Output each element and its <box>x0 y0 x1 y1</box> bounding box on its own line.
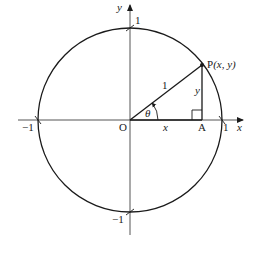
opposite-label: y <box>194 84 200 96</box>
point-p-coords: (x, y) <box>213 58 236 71</box>
adjacent-label: x <box>162 121 168 133</box>
tick-label-x-pos: 1 <box>223 121 229 133</box>
origin-label: O <box>119 121 127 133</box>
segment-op <box>130 65 202 120</box>
tick-label-y-neg: −1 <box>112 213 124 225</box>
tick-label-x-neg: −1 <box>22 121 34 133</box>
point-p-label: P(x, y) <box>207 58 236 71</box>
point-a-label: A <box>198 121 206 133</box>
point-p-dot <box>200 63 204 67</box>
hypotenuse-label: 1 <box>162 79 168 91</box>
angle-label: θ <box>145 107 151 119</box>
right-angle-marker <box>192 110 202 120</box>
tick-label-y-pos: 1 <box>135 14 141 26</box>
x-axis-label: x <box>236 121 242 133</box>
y-axis-label: y <box>116 1 122 13</box>
unit-circle-diagram: y x 1 −1 −1 1 O A P(x, y) 1 x y θ <box>0 0 260 253</box>
angle-arc <box>152 103 158 120</box>
